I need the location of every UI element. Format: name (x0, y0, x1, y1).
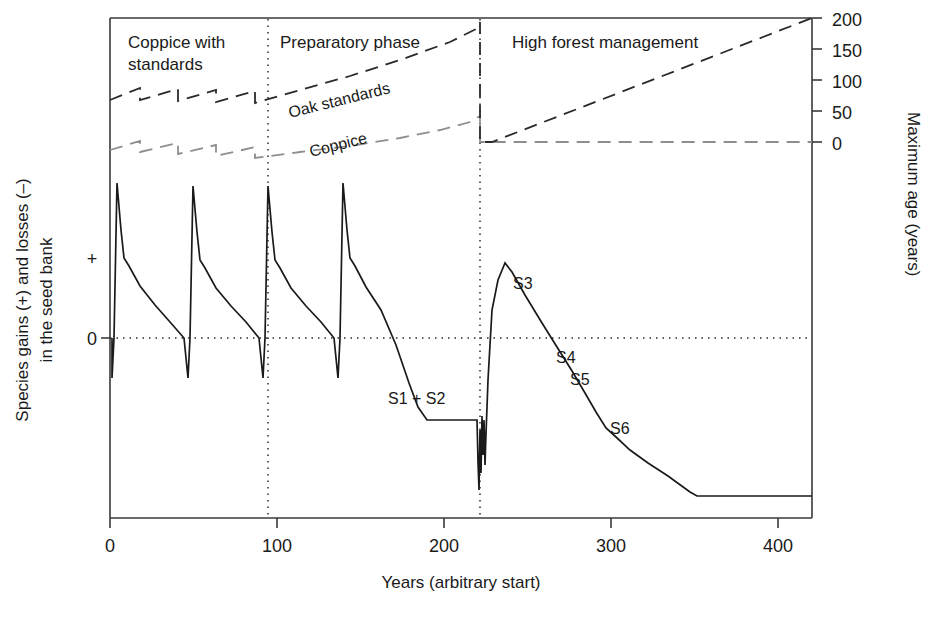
r-tick-label-50: 50 (832, 103, 852, 123)
r-tick-label-150: 150 (832, 41, 862, 61)
annotation-s4: S4 (556, 349, 576, 366)
r-tick-label-100: 100 (832, 72, 862, 92)
left-axis-title-line2: in the seed bank (37, 237, 56, 362)
phase-label-high-forest: High forest management (512, 33, 698, 52)
series-label-coppice: Coppice (308, 129, 369, 160)
series-labels: Oak standards Coppice (287, 79, 392, 160)
phase-label-preparatory: Preparatory phase (280, 33, 420, 52)
seed-bank-curve (112, 183, 812, 496)
seed-bank-dynamics-chart: 0 100 200 300 400 Years (arbitrary start… (0, 0, 928, 623)
left-axis-title-line1: Species gains (+) and losses (–) (13, 178, 32, 421)
figure-container: 0 100 200 300 400 Years (arbitrary start… (0, 0, 928, 623)
seed-bank-annotations: S1 + S2 S3 S4 S5 S6 (388, 275, 630, 437)
annotation-s3: S3 (513, 275, 533, 292)
left-axis-ticks: + 0 (87, 249, 110, 349)
x-axis-title: Years (arbitrary start) (381, 573, 540, 592)
x-tick-label-200: 200 (429, 536, 459, 556)
phase-labels: Coppice with standards Preparatory phase… (128, 33, 698, 74)
series-label-oak-standards: Oak standards (287, 79, 392, 121)
r-tick-label-0: 0 (832, 134, 842, 154)
phase-label-coppice-line2: standards (128, 55, 203, 74)
y-tick-label-plus: + (87, 249, 98, 269)
phase-label-coppice-line1: Coppice with (128, 33, 225, 52)
x-axis-ticks: 0 100 200 300 400 (105, 518, 793, 556)
x-tick-label-300: 300 (596, 536, 626, 556)
x-tick-label-100: 100 (262, 536, 292, 556)
x-tick-label-400: 400 (763, 536, 793, 556)
y-tick-label-zero: 0 (87, 329, 97, 349)
right-axis-ticks: 200 150 100 50 0 (812, 10, 862, 154)
coppice-age-line (110, 116, 812, 158)
right-axis-title: Maximum age (years) (904, 112, 923, 276)
r-tick-label-200: 200 (832, 10, 862, 30)
annotation-s6: S6 (610, 420, 630, 437)
x-tick-label-0: 0 (105, 536, 115, 556)
annotation-s5: S5 (570, 371, 590, 388)
annotation-s1-s2: S1 + S2 (388, 390, 445, 407)
left-axis-title: Species gains (+) and losses (–) in the … (13, 178, 56, 421)
